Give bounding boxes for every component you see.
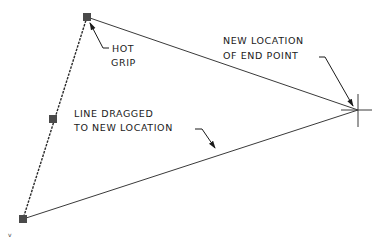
label-new-location-line1: NEW LOCATION (223, 35, 304, 46)
mid-grip[interactable] (49, 115, 57, 123)
leader-hot-grip (90, 23, 109, 48)
diagram-canvas: HOT GRIP NEW LOCATION OF END POINT LINE … (0, 0, 385, 240)
hot-grip[interactable] (83, 13, 91, 21)
label-hot-grip-line1: HOT (112, 43, 134, 54)
diagram-svg: HOT GRIP NEW LOCATION OF END POINT LINE … (0, 0, 385, 240)
leader-line-dragged (195, 129, 215, 148)
corner-mark: v (8, 231, 12, 238)
label-new-location-line2: OF END POINT (223, 50, 299, 61)
label-line-dragged-line2: TO NEW LOCATION (73, 122, 173, 133)
label-line-dragged-line1: LINE DRAGGED (74, 108, 153, 119)
bottom-grip[interactable] (19, 215, 27, 223)
crosshair-icon (341, 94, 372, 127)
label-hot-grip-line2: GRIP (111, 57, 136, 68)
